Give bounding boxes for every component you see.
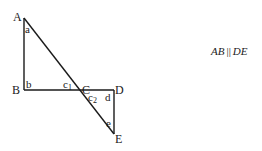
annotation-right: DE xyxy=(232,45,248,57)
angle-label-c1: c1 xyxy=(63,78,72,92)
parallel-symbol: || xyxy=(226,45,230,57)
angle-label-d: d xyxy=(105,91,111,103)
vertex-label-b: B xyxy=(12,83,20,97)
angle-label-c2: c2 xyxy=(88,91,97,105)
vertex-label-a: A xyxy=(13,10,22,24)
angle-label-e: e xyxy=(106,117,111,129)
segment-ae xyxy=(24,18,114,134)
angle-label-b: b xyxy=(26,78,32,90)
parallel-annotation: AB||DE xyxy=(210,45,248,57)
annotation-left: AB xyxy=(210,45,225,57)
geometry-diagram: A B C D E a b c1 c2 d e AB||DE xyxy=(0,0,262,151)
angle-label-a: a xyxy=(25,23,30,35)
vertex-label-d: D xyxy=(115,83,124,97)
vertex-label-e: E xyxy=(115,132,122,146)
